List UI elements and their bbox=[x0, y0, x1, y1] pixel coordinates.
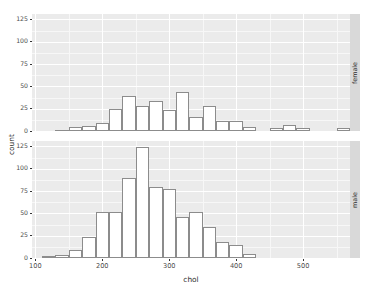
y-tick-label: 100 bbox=[16, 165, 28, 171]
facet-strip-female: female bbox=[350, 14, 360, 131]
histogram-bar bbox=[337, 128, 350, 131]
gridline-minor-x bbox=[270, 14, 271, 131]
y-tick-mark bbox=[30, 235, 32, 236]
histogram-bar bbox=[229, 245, 242, 258]
y-tick-mark bbox=[30, 146, 32, 147]
y-tick-label: 0 bbox=[24, 255, 28, 261]
y-tick-mark bbox=[30, 191, 32, 192]
gridline-major-x bbox=[303, 14, 304, 131]
histogram-bar bbox=[82, 237, 95, 258]
histogram-bar bbox=[42, 256, 55, 258]
chart-container: count chol 0255075100125female0255075100… bbox=[0, 0, 382, 295]
gridline-major-x bbox=[236, 141, 237, 258]
y-tick-mark bbox=[30, 86, 32, 87]
gridline-minor-x bbox=[270, 141, 271, 258]
histogram-bar bbox=[296, 128, 309, 131]
histogram-bar bbox=[229, 121, 242, 131]
x-tick-label: 100 bbox=[21, 263, 49, 270]
y-tick-label: 100 bbox=[16, 38, 28, 44]
histogram-bar bbox=[69, 250, 82, 258]
facet-strip-label: male bbox=[352, 192, 358, 208]
y-axis-title: count bbox=[8, 134, 15, 155]
histogram-bar bbox=[96, 212, 109, 258]
x-tick-mark bbox=[236, 259, 237, 261]
histogram-bar bbox=[96, 123, 109, 131]
histogram-bar bbox=[176, 217, 189, 258]
y-tick-mark bbox=[30, 131, 32, 132]
y-tick-label: 75 bbox=[20, 61, 28, 67]
facet-strip-male: male bbox=[350, 141, 360, 258]
facet-panel-female bbox=[32, 14, 350, 131]
histogram-bar bbox=[163, 110, 176, 131]
x-axis-title: chol bbox=[0, 276, 382, 283]
histogram-bar bbox=[216, 121, 229, 131]
x-tick-mark bbox=[102, 259, 103, 261]
histogram-bar bbox=[69, 127, 82, 131]
histogram-bar bbox=[243, 254, 256, 258]
y-tick-mark bbox=[30, 19, 32, 20]
gridline-minor-x bbox=[337, 14, 338, 131]
y-tick-label: 50 bbox=[20, 210, 28, 216]
y-tick-label: 25 bbox=[20, 232, 28, 238]
histogram-bar bbox=[189, 117, 202, 131]
y-tick-label: 125 bbox=[16, 16, 28, 22]
histogram-bar bbox=[203, 106, 216, 131]
facet-panel-male bbox=[32, 141, 350, 258]
histogram-bar bbox=[270, 128, 283, 131]
histogram-bar bbox=[176, 92, 189, 131]
histogram-bar bbox=[122, 96, 135, 131]
gridline-major-x bbox=[102, 14, 103, 131]
histogram-bar bbox=[163, 189, 176, 258]
y-tick-label: 75 bbox=[20, 188, 28, 194]
x-tick-label: 500 bbox=[289, 263, 317, 270]
histogram-bar bbox=[189, 212, 202, 258]
y-tick-label: 125 bbox=[16, 143, 28, 149]
y-tick-mark bbox=[30, 258, 32, 259]
histogram-bar bbox=[136, 147, 149, 258]
histogram-bar bbox=[55, 130, 68, 131]
histogram-bar bbox=[216, 242, 229, 258]
y-tick-label: 0 bbox=[24, 128, 28, 134]
y-tick-mark bbox=[30, 168, 32, 169]
gridline-major-x bbox=[236, 14, 237, 131]
histogram-bar bbox=[136, 106, 149, 131]
gridline-minor-x bbox=[69, 14, 70, 131]
x-tick-mark bbox=[169, 259, 170, 261]
histogram-bar bbox=[149, 187, 162, 258]
histogram-bar bbox=[109, 212, 122, 258]
x-tick-mark bbox=[35, 259, 36, 261]
histogram-bar bbox=[203, 227, 216, 258]
y-tick-mark bbox=[30, 108, 32, 109]
y-tick-label: 50 bbox=[20, 83, 28, 89]
gridline-minor-x bbox=[69, 141, 70, 258]
x-tick-label: 300 bbox=[155, 263, 183, 270]
y-tick-label: 25 bbox=[20, 105, 28, 111]
histogram-bar bbox=[283, 125, 296, 131]
x-tick-mark bbox=[303, 259, 304, 261]
x-tick-label: 200 bbox=[88, 263, 116, 270]
histogram-bar bbox=[149, 101, 162, 131]
histogram-bar bbox=[55, 255, 68, 258]
histogram-bar bbox=[82, 126, 95, 131]
y-tick-mark bbox=[30, 64, 32, 65]
x-tick-label: 400 bbox=[222, 263, 250, 270]
gridline-major-x bbox=[303, 141, 304, 258]
y-tick-mark bbox=[30, 213, 32, 214]
y-tick-mark bbox=[30, 41, 32, 42]
gridline-major-x bbox=[35, 141, 36, 258]
gridline-major-x bbox=[35, 14, 36, 131]
histogram-bar bbox=[122, 178, 135, 258]
gridline-minor-x bbox=[337, 141, 338, 258]
histogram-bar bbox=[243, 127, 256, 131]
facet-strip-label: female bbox=[352, 61, 358, 83]
histogram-bar bbox=[109, 109, 122, 131]
